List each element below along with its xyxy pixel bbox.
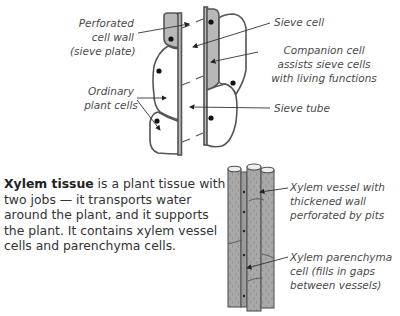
xylem-vessel-middle [247, 167, 261, 311]
vessel-opening-left [228, 166, 241, 172]
vessel-opening-right [261, 167, 274, 173]
xylem-vessel-left [228, 169, 241, 307]
label-xylem-vessel: Xylem vessel with thickened wall perfora… [290, 180, 385, 222]
label-xylem-parenchyma: Xylem parenchyma cell (fills in gaps bet… [290, 250, 392, 292]
vessel-opening-middle [247, 164, 261, 170]
